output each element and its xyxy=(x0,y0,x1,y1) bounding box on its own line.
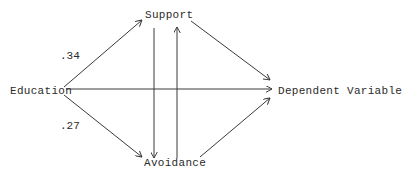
coefficient-education-avoidance: .27 xyxy=(60,120,80,132)
arrow-avoidance-to-dependent xyxy=(200,98,270,157)
node-support: Support xyxy=(145,9,193,21)
arrow-support-to-dependent xyxy=(191,21,270,80)
node-education: Education xyxy=(10,85,72,97)
coefficient-education-support: .34 xyxy=(60,50,80,62)
node-dependent-variable: Dependent Variable xyxy=(278,85,402,97)
node-avoidance: Avoidance xyxy=(144,157,206,169)
